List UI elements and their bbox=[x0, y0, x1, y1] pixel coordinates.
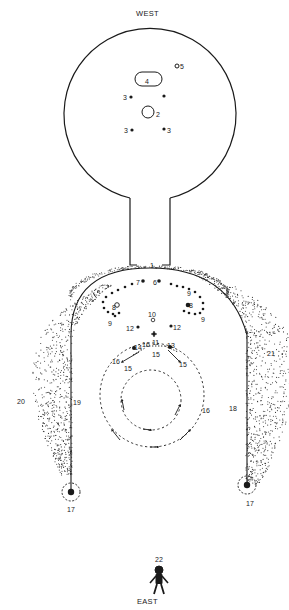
dotted-group-left bbox=[102, 283, 134, 318]
feature-5-circle bbox=[175, 64, 179, 68]
label-n12l: 12 bbox=[126, 325, 134, 332]
stipple-left bbox=[32, 266, 150, 476]
label-n15t: 15 bbox=[152, 351, 160, 358]
label-n19: 19 bbox=[73, 399, 81, 406]
label-n8l: 8 bbox=[112, 304, 116, 311]
label-n9tr: 9 bbox=[187, 290, 191, 297]
stipple-right bbox=[152, 265, 289, 485]
label-n18: 18 bbox=[229, 405, 237, 412]
label-west: WEST bbox=[136, 10, 159, 17]
label-n6: 6 bbox=[153, 279, 157, 286]
label-n13: 13 bbox=[167, 342, 175, 349]
person-figure-icon bbox=[150, 566, 168, 594]
label-n2: 2 bbox=[156, 111, 160, 118]
label-n15l: 15 bbox=[124, 365, 132, 372]
dotted-group-right bbox=[170, 283, 205, 316]
label-n14: 14 bbox=[134, 344, 142, 351]
interior-features bbox=[135, 64, 179, 118]
label-n17l: 17 bbox=[67, 506, 75, 513]
label-n7: 7 bbox=[136, 279, 140, 286]
keyhole-outline bbox=[64, 28, 236, 265]
label-n16l: 16 bbox=[112, 358, 120, 365]
label-n9l: 9 bbox=[108, 320, 112, 327]
label-n16r: 16 bbox=[202, 407, 210, 414]
inner-circuit bbox=[121, 370, 181, 430]
label-n20: 20 bbox=[17, 398, 25, 405]
label-n3a: 3 bbox=[123, 94, 127, 101]
site-plan-diagram: WESTEAST54323317688999101212141611131516… bbox=[0, 0, 289, 610]
label-n4: 4 bbox=[145, 78, 149, 85]
diagram-canvas bbox=[0, 0, 289, 610]
label-n22: 22 bbox=[155, 556, 163, 563]
label-n10: 10 bbox=[148, 311, 156, 318]
label-n9br: 9 bbox=[201, 316, 205, 323]
label-n1: 1 bbox=[150, 262, 154, 269]
label-n16t: 16 bbox=[142, 341, 150, 348]
label-n11: 11 bbox=[152, 339, 159, 346]
arch-line bbox=[71, 268, 247, 490]
label-n8r: 8 bbox=[189, 302, 193, 309]
label-n12r: 12 bbox=[173, 324, 181, 331]
label-n3b: 3 bbox=[124, 127, 128, 134]
post-markers bbox=[129, 94, 165, 131]
label-n17r: 17 bbox=[246, 500, 254, 507]
label-n21: 21 bbox=[267, 350, 275, 357]
label-n5: 5 bbox=[180, 63, 184, 70]
label-east: EAST bbox=[137, 598, 158, 605]
feature-2-circle bbox=[142, 106, 154, 118]
label-n15r: 15 bbox=[179, 361, 187, 368]
label-n3c: 3 bbox=[167, 127, 171, 134]
